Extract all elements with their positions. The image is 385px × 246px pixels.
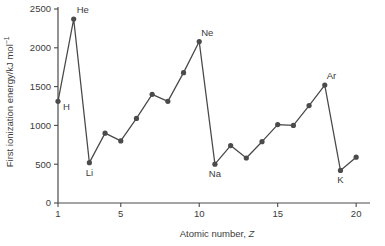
data-point-marker	[275, 122, 280, 127]
data-point-marker	[244, 155, 249, 160]
y-tick-label: 0	[46, 197, 51, 208]
data-point-label: K	[337, 174, 344, 185]
data-point-label: Li	[86, 167, 93, 178]
x-tick-label: 10	[194, 208, 205, 219]
data-point-label: Ar	[327, 70, 337, 81]
data-point-marker	[322, 82, 327, 87]
y-tick-label: 1500	[30, 81, 51, 92]
x-axis-title-italic: Z	[247, 228, 255, 239]
x-axis-title: Atomic number, Z	[180, 228, 256, 239]
y-tick-label: 2500	[30, 3, 51, 14]
data-point-marker	[165, 99, 170, 104]
y-tick-label: 2000	[30, 42, 51, 53]
x-tick-label: 20	[351, 208, 362, 219]
data-point-marker	[228, 143, 233, 148]
data-series-line	[58, 19, 356, 170]
data-point-marker	[71, 16, 76, 21]
y-tick-label: 1000	[30, 120, 51, 131]
data-point-marker	[87, 160, 92, 165]
data-point-marker	[197, 39, 202, 44]
data-point-marker	[150, 92, 155, 97]
x-tick-label: 5	[118, 208, 123, 219]
data-point-marker	[338, 168, 343, 173]
data-point-marker	[118, 138, 123, 143]
data-point-label: Ne	[201, 27, 213, 38]
x-tick-label: 15	[272, 208, 283, 219]
data-point-label: Na	[209, 168, 222, 179]
data-point-marker	[291, 123, 296, 128]
data-point-marker	[181, 70, 186, 75]
data-point-marker	[306, 103, 311, 108]
data-point-label: H	[63, 101, 70, 112]
y-tick-label: 500	[35, 159, 51, 170]
data-point-marker	[55, 99, 60, 104]
data-point-label: He	[77, 4, 89, 15]
x-axis-title-plain: Atomic number,	[180, 228, 249, 239]
x-tick-label: 1	[55, 208, 60, 219]
data-point-marker	[259, 139, 264, 144]
plot-area: 0500100015002000250015101520HHeLiNeNaArK…	[0, 0, 385, 246]
data-point-marker	[102, 131, 107, 136]
data-point-marker	[212, 162, 217, 167]
ionization-energy-chart-figure: First ionization energy/kJ mol−1 0500100…	[0, 0, 385, 246]
data-point-marker	[134, 116, 139, 121]
data-point-marker	[354, 155, 359, 160]
